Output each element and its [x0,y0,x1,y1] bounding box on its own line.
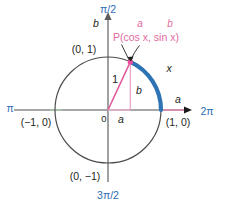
label-two-pi: 2π [200,105,213,117]
label-b-over-sin: b [167,18,173,29]
label-x-axis-letter: a [175,93,181,105]
label-origin: 0 [101,113,106,124]
label-coord-right: (1, 0) [166,116,191,128]
label-pi: π [6,102,13,114]
label-radius-one: 1 [112,73,118,85]
label-point-p: P(cos x, sin x) [113,31,179,43]
label-a-over-cos: a [137,18,143,29]
unit-circle-svg: π/2 b a b P(cos x, sin x) (0, 1) x 1 b π… [0,0,228,203]
label-y-axis-letter: b [93,17,99,29]
label-pi-over-2: π/2 [100,3,116,15]
label-coord-left: (−1, 0) [21,116,52,128]
leader-line-left [122,45,130,61]
unit-circle-figure: π/2 b a b P(cos x, sin x) (0, 1) x 1 b π… [0,0,228,203]
label-coord-top: (0, 1) [72,43,97,55]
label-leg-b: b [136,84,142,96]
label-coord-bottom: (0, −1) [70,170,101,182]
radius-segment [108,62,130,110]
label-arc-x: x [165,62,172,74]
highlighted-arc [130,62,161,110]
label-leg-a: a [118,113,124,125]
x-axis-arrow-icon [184,106,192,113]
label-three-pi-over-2: 3π/2 [97,189,119,201]
